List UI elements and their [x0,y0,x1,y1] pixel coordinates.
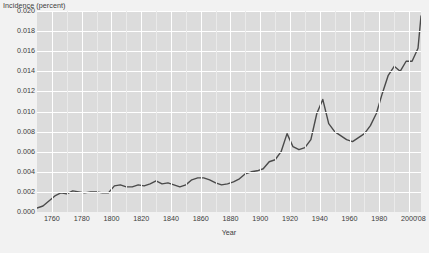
gridline-vertical [171,11,172,212]
x-axis-tick-label: 2000 [401,214,417,223]
x-axis-tick-label: 1920 [282,214,298,223]
y-axis-tick-label: 0.002 [2,188,35,196]
gridline-vertical [260,11,261,212]
gridline-vertical [111,11,112,212]
x-axis-tick-label: 1820 [133,214,149,223]
x-axis-tick-label: 1840 [163,214,179,223]
gridline-vertical [82,11,83,212]
y-axis-tick-label: 0.012 [2,87,35,95]
y-axis-tick-label: 0.016 [2,47,35,55]
gridline-vertical [379,11,380,212]
y-axis-tick-label: 0.018 [2,27,35,35]
x-axis-title: Year [37,228,421,237]
y-axis-tick-label: 0.014 [2,67,35,75]
gridline-vertical-minor [216,11,217,212]
gridline-vertical [350,11,351,212]
gridline-vertical-minor [67,11,68,212]
gridline-vertical-minor [126,11,127,212]
x-axis-tick-labels: 1760178018001820184018601880190019201940… [37,214,421,226]
gridline-vertical [141,11,142,212]
x-axis-tick-label: 1780 [74,214,90,223]
gridline-vertical-minor [186,11,187,212]
y-axis-tick-labels: 0.0000.0020.0040.0060.0080.0100.0120.014… [0,11,35,212]
gridline-vertical-minor [335,11,336,212]
gridline-vertical [409,11,410,212]
x-axis-tick-label: 1760 [44,214,60,223]
gridline-vertical-minor [275,11,276,212]
gridline-vertical-minor [156,11,157,212]
x-axis-tick-label: 1900 [252,214,268,223]
x-axis-tick-label: 1960 [342,214,358,223]
gridline-vertical [201,11,202,212]
x-axis-tick-label: 1980 [371,214,387,223]
gridline-vertical-minor [364,11,365,212]
x-axis-tick-label: '08 [416,214,425,223]
gridline-vertical-minor [394,11,395,212]
x-axis-tick-label: 1880 [222,214,238,223]
chart-container: Incidence (percent) 0.0000.0020.0040.006… [0,0,429,253]
x-axis-tick-label: 1940 [312,214,328,223]
x-axis-tick-label: 1860 [193,214,209,223]
gridline-vertical [52,11,53,212]
y-axis-tick-label: 0.000 [2,208,35,216]
y-axis-tick-label: 0.008 [2,128,35,136]
y-axis-tick-label: 0.006 [2,148,35,156]
plot-area [37,11,421,212]
gridline-vertical-minor [305,11,306,212]
gridline-vertical-minor [245,11,246,212]
gridline-vertical-minor [97,11,98,212]
gridline-vertical [290,11,291,212]
y-axis-tick-label: 0.004 [2,168,35,176]
gridline-vertical [320,11,321,212]
x-axis-tick-label: 1800 [103,214,119,223]
gridline-vertical [230,11,231,212]
y-axis-tick-label: 0.020 [2,7,35,15]
y-axis-tick-label: 0.010 [2,108,35,116]
